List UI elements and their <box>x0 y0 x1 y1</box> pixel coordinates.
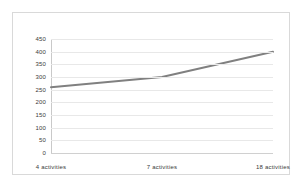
y-tick-label-100: 100 <box>35 125 46 131</box>
gridline-y-150: 150 <box>51 115 273 116</box>
y-tick-label-250: 250 <box>35 87 46 93</box>
y-tick-label-150: 150 <box>35 112 46 118</box>
gridline-y-300: 300 <box>51 77 273 78</box>
chart-frame: 0501001502002503003504004504 activities7… <box>12 12 290 175</box>
gridline-y-350: 350 <box>51 64 273 65</box>
y-tick-label-200: 200 <box>35 99 46 105</box>
gridline-y-400: 400 <box>51 52 273 53</box>
gridline-y-100: 100 <box>51 128 273 129</box>
series-line-activities <box>51 52 273 87</box>
line-series-svg <box>51 39 273 153</box>
y-tick-label-0: 0 <box>42 150 46 156</box>
x-tick-label-1: 4 activities <box>36 164 66 170</box>
gridline-y-200: 200 <box>51 102 273 103</box>
y-tick-label-450: 450 <box>35 36 46 42</box>
y-tick-label-400: 400 <box>35 49 46 55</box>
y-tick-label-50: 50 <box>39 137 46 143</box>
gridline-y-450: 450 <box>51 39 273 40</box>
y-tick-label-350: 350 <box>35 61 46 67</box>
plot-area: 0501001502002503003504004504 activities7… <box>51 39 273 153</box>
gridline-y-0: 0 <box>51 153 273 154</box>
y-tick-label-300: 300 <box>35 74 46 80</box>
gridline-y-50: 50 <box>51 140 273 141</box>
gridline-y-250: 250 <box>51 90 273 91</box>
x-tick-label-2: 7 activities <box>147 164 177 170</box>
x-tick-label-3: 18 activities <box>256 164 290 170</box>
